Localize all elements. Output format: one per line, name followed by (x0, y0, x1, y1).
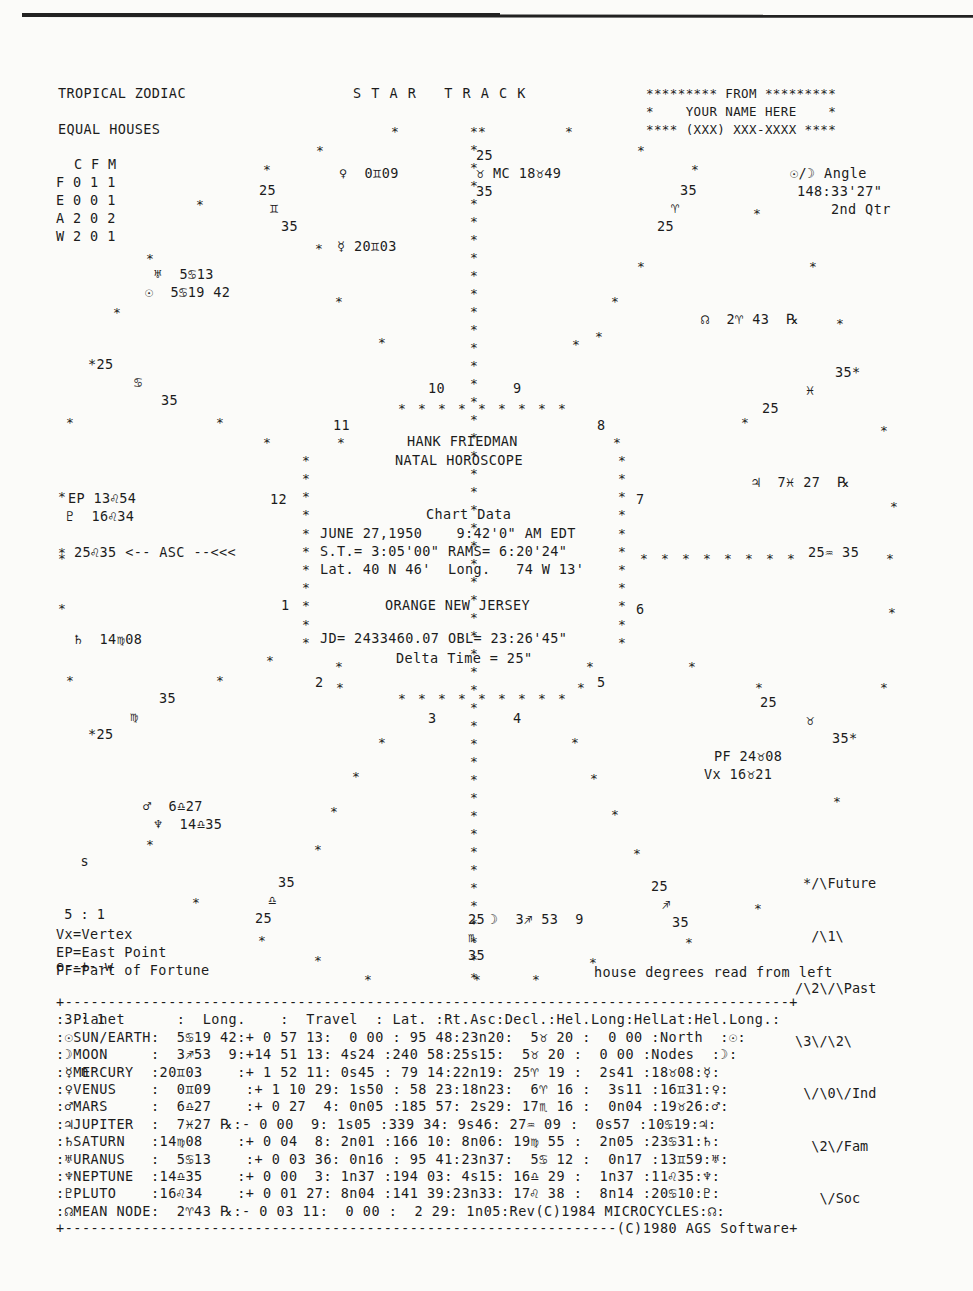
from-box-line-2: * YOUR NAME HERE * (646, 106, 836, 119)
asterisk-marker: * (618, 581, 626, 594)
wheel-mc: ♉ MC 18♉49 (476, 167, 561, 181)
asterisk-marker: * (724, 552, 732, 565)
asterisk-marker: * (766, 552, 774, 565)
asterisk-marker: * (314, 954, 322, 967)
asterisk-marker: * (470, 395, 478, 408)
asterisk-marker: * (470, 899, 478, 912)
asterisk-marker: * (66, 674, 74, 687)
asterisk-marker: * (470, 683, 478, 696)
table-row-mercury: :☿MERCURY :20♊03 :+ 1 52 11: 0s45 : 79 1… (56, 1064, 798, 1081)
asterisk-marker: * (470, 701, 478, 714)
asterisk-marker: * (302, 527, 310, 540)
asterisk-marker: * (58, 552, 66, 565)
asterisk-marker: * (637, 144, 645, 157)
asterisk-marker: * (364, 973, 372, 986)
asterisk-marker: * (470, 305, 478, 318)
diamond-line: \2\/Fam (795, 1138, 876, 1156)
asterisk-marker: * (146, 252, 154, 265)
wheel-mars: ♂ 6♎27 (143, 800, 203, 814)
wheel-pluto: ♇ 16♌34 (66, 510, 134, 524)
wheel-node: ☊ 2♈ 43 ℞ (701, 313, 800, 327)
asterisk-marker: * (836, 317, 844, 330)
asterisk-marker: * (470, 485, 478, 498)
asterisk-marker: * (302, 563, 310, 576)
legend-east-point: EP=East Point (56, 946, 167, 960)
asterisk-marker: * (618, 454, 626, 467)
asterisk-marker: * (518, 402, 526, 415)
diamond-line: */\Future (803, 875, 876, 893)
sun-moon-angle-value: 148:33'27" (797, 185, 882, 199)
diamond-line: /\2\/\Past (795, 980, 876, 998)
asterisk-marker: * (302, 581, 310, 594)
asterisk-marker: * (470, 161, 478, 174)
asterisk-marker: * (565, 125, 573, 138)
cusp-label: 35 (281, 220, 298, 234)
chart-subject-name: HANK FRIEDMAN (407, 435, 518, 449)
julian-day: JD= 2433460.07 OBL= 23:26'45" (320, 632, 567, 646)
asterisk-marker: * (470, 377, 478, 390)
table-row-jupiter: :♃JUPITER : 7♓27 ℞:- 0 00 9: 1s05 :339 3… (56, 1116, 798, 1133)
asterisk-marker: * (192, 896, 200, 909)
cusp-label: 25 (476, 149, 493, 163)
asterisk-marker: * (637, 260, 645, 273)
asterisk-marker: * (330, 805, 338, 818)
asterisk-marker: * (590, 772, 598, 785)
asterisk-marker: * (703, 552, 711, 565)
asterisk-marker: * (755, 681, 763, 694)
asterisk-marker: * (470, 233, 478, 246)
wheel-descendant: 25♒ 35 (808, 546, 859, 560)
cusp-sign: ♐ (662, 898, 671, 912)
asterisk-marker: * (470, 917, 478, 930)
chart-data-label: Chart Data (426, 508, 511, 522)
cusp-label: 25 (651, 880, 668, 894)
from-box-line-3: **** (XXX) XXX-XXXX **** (646, 124, 836, 137)
asterisk-marker: * (572, 338, 580, 351)
asterisk-marker: * (618, 490, 626, 503)
table-row-pluto: :♇PLUTO :16♌34 :+ 0 01 27: 8n04 :141 39:… (56, 1185, 798, 1202)
asterisk-marker: * (470, 359, 478, 372)
asterisk-marker: * (470, 629, 478, 642)
asterisk-marker: * (577, 681, 585, 694)
asterisk-marker: * (470, 809, 478, 822)
cusp-label: 35 (161, 394, 178, 408)
asterisk-marker: * (661, 552, 669, 565)
cusp-label: 25 (657, 220, 674, 234)
asterisk-marker: * (352, 770, 360, 783)
asterisk-marker: * (302, 508, 310, 521)
cusp-label: 25 (259, 184, 276, 198)
asterisk-marker: * (787, 552, 795, 565)
asterisk-marker: * (391, 125, 399, 138)
asterisk-marker: * (611, 295, 619, 308)
diamond-line: \3\/\2\ (795, 1033, 876, 1051)
wheel-mercury: ☿ 20♊03 (337, 240, 397, 254)
cfm-header: C F M (74, 158, 117, 172)
asterisk-marker: * (458, 692, 466, 705)
asterisk-marker: * (302, 490, 310, 503)
compass-line: s (56, 853, 113, 871)
cusp-label: 35 (476, 185, 493, 199)
asterisk-marker: * (146, 838, 154, 851)
asterisk-marker: * (302, 545, 310, 558)
table-header: : Planet : Long. : Travel : Lat. :Rt.Asc… (56, 1011, 798, 1028)
house-degrees-note: house degrees read from left (594, 966, 833, 980)
asterisk-marker: * (685, 936, 693, 949)
asterisk-marker: * (302, 454, 310, 467)
table-row-saturn: :♄SATURN :14♍08 :+ 0 04 8: 2n01 :166 10:… (56, 1133, 798, 1150)
asterisk-marker: * (335, 660, 343, 673)
asterisk-marker: * (337, 436, 345, 449)
delta-time: Delta Time = 25" (396, 652, 532, 666)
asterisk-marker: * (398, 402, 406, 415)
asterisk-marker: * (809, 260, 817, 273)
asterisk-marker: * (618, 563, 626, 576)
asterisk-marker: * (640, 552, 648, 565)
cusp-sign: ♋ (134, 376, 143, 390)
program-title: S T A R T R A C K (353, 87, 526, 101)
table-row-moon: :☽MOON : 3♐53 9:+14 51 13: 4s24 :240 58:… (56, 1046, 798, 1063)
house-number-11: 11 (333, 419, 350, 433)
cusp-label: 25 (760, 696, 777, 710)
diamond-line: \/Soc (795, 1190, 876, 1208)
wheel-uranus: ♅ 5♋13 (154, 268, 214, 282)
asterisk-marker: * (196, 198, 204, 211)
wheel-vertex: Vx 16♉21 (704, 768, 772, 782)
cusp-label: 35 (159, 692, 176, 706)
